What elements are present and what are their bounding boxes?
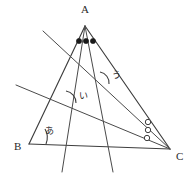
angle-label-a-b: あ xyxy=(45,126,54,136)
equal-angle-dot-1 xyxy=(76,38,81,43)
angle-arc-u xyxy=(100,72,109,84)
equal-angle-circle-2 xyxy=(145,127,150,132)
vertex-label-b: B xyxy=(14,140,21,152)
angle-label-u: う xyxy=(112,70,121,80)
vertex-label-a: A xyxy=(81,3,89,15)
cevian-c-upper xyxy=(43,31,170,149)
equal-angle-dot-2 xyxy=(83,38,88,43)
angle-label-i: い xyxy=(79,91,88,101)
equal-angle-dot-3 xyxy=(90,38,95,43)
geometry-diagram-canvas: A B C あ い う xyxy=(0,0,194,180)
segment-ac xyxy=(85,26,170,149)
equal-angle-circle-3 xyxy=(144,135,149,140)
vertex-label-c: C xyxy=(176,150,183,162)
segment-bc xyxy=(29,144,170,149)
geometry-figure: A B C あ い う xyxy=(0,0,194,180)
equal-angle-circle-1 xyxy=(145,119,150,124)
cevian-a-right xyxy=(85,26,113,172)
